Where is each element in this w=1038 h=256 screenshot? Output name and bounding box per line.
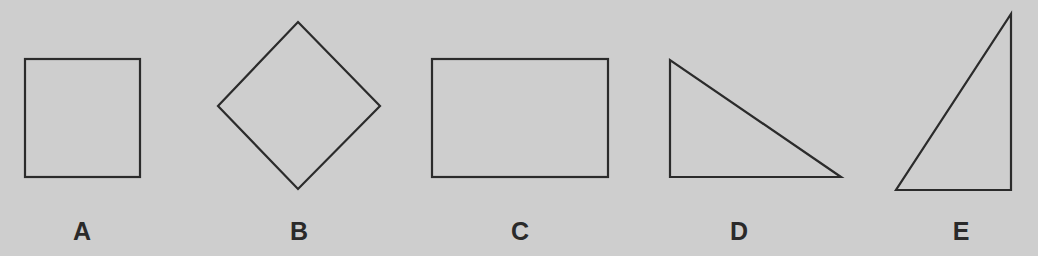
shape-b-diamond — [218, 22, 380, 189]
shape-group-c: C — [432, 59, 608, 245]
figure-canvas: A B C D E — [0, 0, 1038, 256]
label-e: E — [953, 217, 970, 245]
shape-group-d: D — [670, 60, 841, 245]
shape-group-b: B — [218, 22, 380, 245]
shape-d-triangle — [670, 60, 841, 177]
shape-c-rectangle — [432, 59, 608, 177]
label-d: D — [730, 217, 748, 245]
shape-group-a: A — [25, 59, 140, 245]
label-c: C — [511, 217, 529, 245]
shapes-figure: A B C D E — [0, 0, 1038, 256]
label-b: B — [290, 217, 308, 245]
shape-e-triangle — [896, 14, 1011, 190]
label-a: A — [73, 217, 91, 245]
shape-a-square — [25, 59, 140, 177]
shape-group-e: E — [896, 14, 1011, 245]
